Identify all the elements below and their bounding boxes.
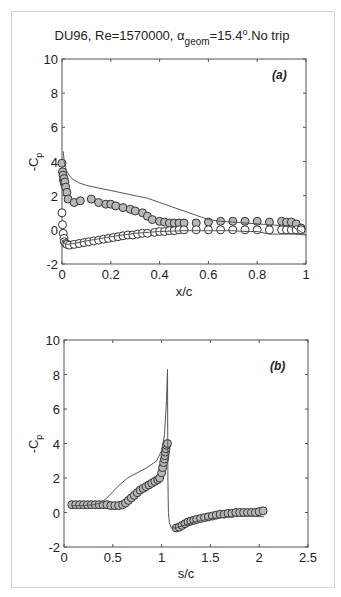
marker-a — [131, 207, 139, 215]
y-tick-label-b: 6 — [53, 402, 60, 417]
x-tick-label-a: 0 — [58, 267, 65, 282]
marker-a — [229, 226, 237, 234]
y-tick-label-a: 6 — [51, 120, 58, 135]
y-tick-label-b: 10 — [46, 333, 60, 348]
figure-title: DU96, Re=1570000, αgeom=15.4o.No trip — [55, 27, 290, 47]
marker-a — [95, 199, 103, 207]
data-series-b — [68, 369, 267, 532]
y-tick-label-b: 2 — [53, 471, 60, 486]
y-tick-label-a: 8 — [51, 86, 58, 101]
y-tick-label-a: 10 — [44, 52, 58, 67]
marker-a — [265, 226, 273, 234]
y-tick-label-b: -2 — [48, 540, 60, 555]
marker-a — [87, 195, 95, 203]
y-axis-label-b: -Cp — [26, 435, 44, 454]
marker-a — [119, 204, 127, 212]
marker-a — [148, 216, 156, 224]
marker-b — [259, 507, 267, 515]
x-tick-label-a: 0.2 — [102, 267, 120, 282]
marker-a — [241, 217, 249, 225]
marker-a — [143, 229, 151, 237]
x-axis-label-a: x/c — [176, 284, 193, 299]
x-tick-label-b: 0 — [60, 550, 67, 565]
y-tick-label-a: 0 — [51, 223, 58, 238]
y-tick-label-b: 4 — [53, 437, 60, 452]
marker-a — [58, 209, 66, 217]
x-axis-label-b: s/c — [178, 566, 195, 581]
marker-a — [192, 226, 200, 234]
marker-a — [241, 226, 249, 234]
panel-label-b: (b) — [270, 359, 285, 373]
marker-a — [180, 226, 188, 234]
axis-ticks-a: 00.20.40.60.81-20246810 — [44, 52, 310, 282]
y-tick-label-b: 8 — [53, 368, 60, 383]
x-tick-label-b: 0.5 — [104, 550, 122, 565]
marker-a — [217, 226, 225, 234]
panel-label-a: (a) — [272, 68, 287, 82]
chart-panel-b: 00.511.522.5-20246810 (b) s/c -Cp — [26, 333, 317, 581]
marker-a — [204, 226, 212, 234]
x-tick-label-a: 0.6 — [199, 267, 217, 282]
figure-canvas: DU96, Re=1570000, αgeom=15.4o.No trip 00… — [0, 0, 341, 597]
y-axis-label-a: -Cp — [26, 153, 44, 172]
marker-a — [112, 202, 120, 210]
x-tick-label-b: 1 — [158, 550, 165, 565]
y-tick-label-a: -2 — [46, 257, 58, 272]
x-tick-label-a: 0.8 — [248, 267, 266, 282]
x-tick-label-b: 2.5 — [299, 550, 317, 565]
marker-a — [229, 217, 237, 225]
marker-a — [76, 197, 84, 205]
x-tick-label-a: 0.4 — [151, 267, 169, 282]
x-tick-label-a: 1 — [302, 267, 309, 282]
x-tick-label-b: 2 — [256, 550, 263, 565]
y-tick-label-a: 2 — [51, 189, 58, 204]
chart-panel-a: 00.20.40.60.81-20246810 (a) x/c -Cp — [26, 52, 310, 299]
x-tick-label-b: 1.5 — [201, 550, 219, 565]
y-tick-label-a: 4 — [51, 155, 58, 170]
y-tick-label-b: 0 — [53, 506, 60, 521]
data-series-a — [58, 151, 306, 249]
marker-a — [59, 221, 67, 229]
